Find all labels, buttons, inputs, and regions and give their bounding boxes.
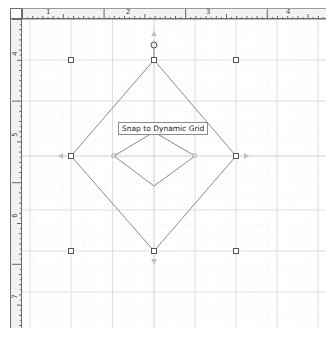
handle-bottom[interactable]: [152, 249, 157, 254]
ruler-vlabel-5: 5: [12, 132, 19, 136]
ruler-label-2: 2: [126, 9, 130, 16]
handle-top-left[interactable]: [69, 58, 74, 63]
ruler-label-4: 4: [286, 9, 290, 16]
snap-tooltip: Snap to Dynamic Grid: [118, 122, 208, 135]
handle-left[interactable]: [69, 154, 74, 159]
handle-bottom-right[interactable]: [234, 249, 239, 254]
diagram-editor: 1 2 3 4 4 5 6 7 Snap to Dynamic Grid: [0, 0, 326, 337]
handle-bottom-left[interactable]: [69, 249, 74, 254]
handle-top[interactable]: [152, 58, 157, 63]
ruler-corner: [10, 8, 22, 19]
ruler-label-3: 3: [206, 9, 210, 16]
handle-right[interactable]: [234, 154, 239, 159]
inner-point-left[interactable]: [112, 154, 115, 157]
handle-top-right[interactable]: [234, 58, 239, 63]
horizontal-ruler[interactable]: [10, 8, 326, 19]
rotation-handle[interactable]: [151, 42, 157, 48]
drawing-canvas[interactable]: [0, 0, 326, 337]
ruler-label-1: 1: [46, 9, 50, 16]
inner-point-right[interactable]: [193, 154, 196, 157]
ruler-vlabel-6: 6: [12, 213, 19, 217]
ruler-vlabel-4: 4: [12, 51, 19, 55]
vertical-ruler[interactable]: [10, 8, 22, 328]
ruler-vlabel-7: 7: [12, 294, 19, 298]
